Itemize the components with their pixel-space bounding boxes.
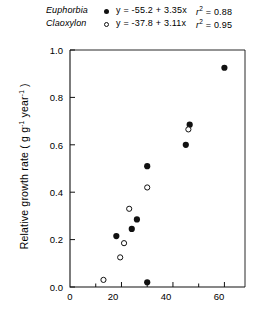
data-point [129, 226, 135, 232]
x-axis-ticks [96, 282, 225, 287]
data-point [118, 255, 123, 260]
data-point [134, 216, 140, 222]
data-point [144, 279, 150, 285]
data-point [121, 241, 126, 246]
data-point [221, 65, 227, 71]
data-point [101, 277, 106, 282]
axis-frame [70, 50, 245, 287]
data-point [113, 233, 119, 239]
data-point [144, 163, 150, 169]
data-point [145, 185, 150, 190]
plot-area [0, 0, 256, 325]
y-axis-ticks [70, 50, 75, 287]
data-points [101, 65, 228, 286]
figure-container: Euphorbia y = -55.2 + 3.35x r2 = 0.88 Cl… [0, 0, 256, 325]
data-point [183, 142, 189, 148]
data-point [127, 206, 132, 211]
data-point [186, 127, 191, 132]
